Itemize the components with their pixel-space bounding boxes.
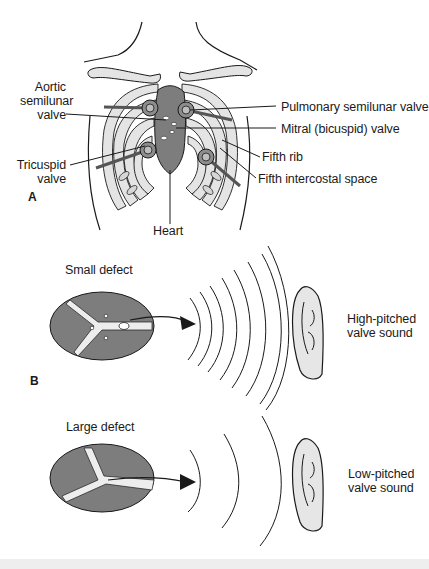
panel-letter-a: A	[28, 190, 37, 204]
label-mitral: Mitral (bicuspid) valve	[281, 122, 400, 136]
heart-shape	[155, 86, 186, 174]
high-frequency-waves	[188, 246, 289, 410]
small-defect-sound-label: High-pitched valve sound	[347, 312, 416, 340]
panel-letter-b: B	[30, 374, 39, 388]
small-defect-valve	[50, 292, 154, 360]
ear-small	[293, 287, 324, 379]
large-sound-line1: Low-pitched	[348, 467, 414, 481]
label-tricuspid: Tricuspid valve	[14, 158, 66, 186]
label-aortic: Aortic semilunar valve	[20, 80, 66, 122]
low-frequency-waves	[188, 416, 281, 546]
large-sound-line2: valve sound	[348, 481, 414, 495]
small-sound-line1: High-pitched	[347, 312, 416, 326]
label-aortic-line3: valve	[20, 108, 66, 122]
large-defect-sound-label: Low-pitched valve sound	[348, 467, 414, 495]
label-fifth-rib: Fifth rib	[262, 150, 303, 164]
ear-large	[293, 439, 324, 531]
label-tricuspid-line2: valve	[14, 172, 66, 186]
small-defect-title: Small defect	[65, 263, 133, 277]
small-sound-line2: valve sound	[347, 326, 416, 340]
label-pulmonary: Pulmonary semilunar valve	[281, 100, 429, 114]
label-aortic-line1: Aortic	[20, 80, 66, 94]
clavicles	[88, 66, 252, 84]
bottom-strip	[0, 559, 429, 569]
label-tricuspid-line1: Tricuspid	[14, 158, 66, 172]
large-defect-title: Large defect	[66, 420, 134, 434]
label-aortic-line2: semilunar	[20, 94, 66, 108]
label-fifth-intercostal: Fifth intercostal space	[258, 172, 377, 186]
label-heart: Heart	[153, 224, 183, 238]
